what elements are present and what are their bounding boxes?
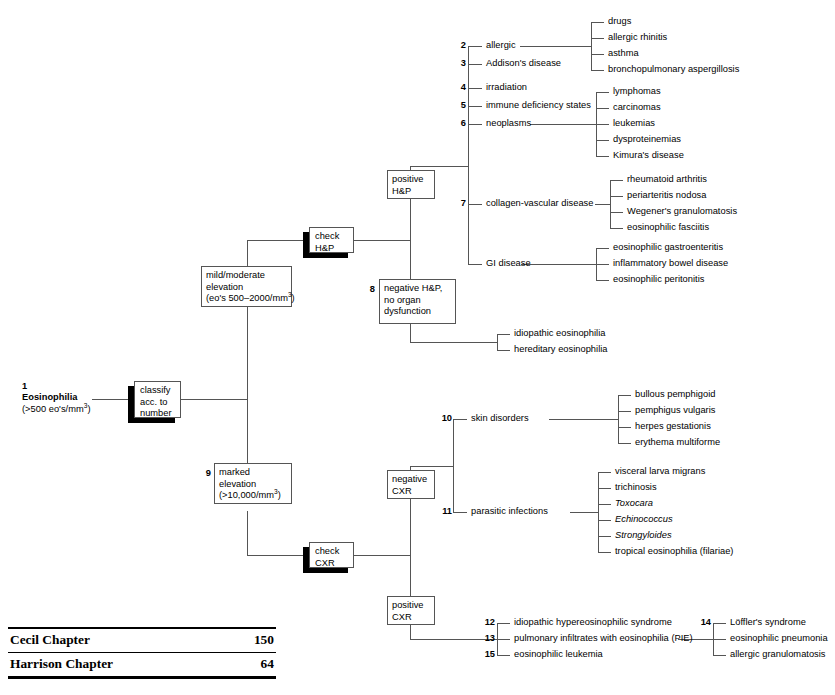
collagen-item-0: rheumatoid arthritis: [627, 174, 707, 186]
root-number: 1: [22, 381, 27, 391]
allergic-item-0: drugs: [608, 16, 631, 28]
negative-hp-item-1: hereditary eosinophilia: [514, 344, 608, 356]
positive-hp-line-2: H&P: [392, 186, 430, 198]
positive-cxr-node[interactable]: positive CXR: [387, 596, 435, 625]
classify-node[interactable]: classify acc. to number: [128, 381, 181, 423]
mild-line-3-prefix: (eo's 500–2000/mm: [206, 293, 288, 303]
classify-line-3: number: [140, 408, 180, 420]
marked-number: 9: [200, 468, 211, 478]
collagen-item-1: periarteritis nodosa: [627, 190, 706, 202]
check-hp-line-2: H&P: [315, 243, 353, 255]
classify-node-box[interactable]: classify acc. to number: [134, 381, 181, 418]
parasitic-item-5: tropical eosinophilia (filariae): [615, 546, 733, 558]
gi-item-2: eosinophilic peritonitis: [613, 274, 704, 286]
root-detail-suffix: ): [87, 404, 90, 414]
positive-cxr-label-13: pulmonary infiltrates with eosinophilia …: [514, 633, 693, 645]
parasitic-item-1: trichinosis: [615, 482, 657, 494]
marked-elevation-node[interactable]: marked elevation (>10,000/mm3): [214, 463, 292, 504]
check-cxr-line-2: CXR: [315, 558, 353, 570]
negative-hp-line-3: dysfunction: [384, 306, 451, 318]
positive-cxr-number-15: 15: [481, 649, 495, 659]
allergic-item-3: bronchopulmonary aspergillosis: [608, 64, 739, 76]
skin-item-2: herpes gestationis: [635, 421, 711, 433]
neoplasm-item-0: lymphomas: [613, 86, 661, 98]
neoplasm-item-3: dysproteinemias: [613, 134, 681, 146]
pie-number-14: 14: [697, 617, 711, 627]
negative-hp-number: 8: [364, 284, 375, 294]
allergic-item-2: asthma: [608, 48, 639, 60]
connector-lines: [0, 0, 835, 695]
negative-cxr-node[interactable]: negative CXR: [387, 470, 435, 499]
positive-cxr-number-12: 12: [481, 617, 495, 627]
cause-number-2: 2: [457, 40, 466, 50]
root-label: Eosinophilia: [22, 392, 78, 404]
mild-line-3: (eo's 500–2000/mm3): [206, 293, 287, 305]
positive-hp-node[interactable]: positive H&P: [387, 170, 435, 199]
mild-line-3-suffix: ): [292, 293, 295, 303]
table-row: Cecil Chapter 150: [8, 629, 276, 652]
positive-cxr-label-12: idiopathic hypereosinophilic syndrome: [514, 617, 672, 629]
root-label-text: Eosinophilia: [22, 392, 78, 402]
table-row: Harrison Chapter 64: [8, 653, 276, 676]
neoplasm-item-2: leukemias: [613, 118, 655, 130]
harrison-chapter-value: 64: [261, 656, 274, 672]
cxr-cause-number-10: 10: [438, 413, 452, 423]
marked-line-3: (>10,000/mm3): [219, 490, 287, 502]
mild-moderate-node[interactable]: mild/moderate elevation (eo's 500–2000/m…: [201, 266, 292, 307]
cause-label-gi-disease: GI disease: [486, 258, 531, 270]
cause-number-4: 4: [457, 82, 466, 92]
parasitic-item-0: visceral larva migrans: [615, 466, 705, 478]
cause-label-immune-deficiency: immune deficiency states: [486, 100, 591, 112]
marked-line-3-prefix: (>10,000/mm: [219, 490, 274, 500]
neoplasm-item-1: carcinomas: [613, 102, 661, 114]
cause-label-irradiation: irradiation: [486, 82, 527, 94]
check-cxr-node-box[interactable]: check CXR: [309, 542, 354, 568]
negative-hp-line-2: no organ: [384, 295, 451, 307]
positive-cxr-line-2: CXR: [392, 612, 430, 624]
neoplasm-item-4: Kimura's disease: [613, 150, 684, 162]
cause-label-addisons: Addison's disease: [486, 58, 561, 70]
cause-label-allergic: allergic: [486, 40, 516, 52]
root-detail-prefix: (>500 eo's/mm: [22, 404, 84, 414]
positive-cxr-label-15: eosinophilic leukemia: [514, 649, 603, 661]
cxr-cause-label-parasitic-infections: parasitic infections: [471, 506, 548, 518]
cxr-cause-number-11: 11: [438, 506, 452, 516]
negative-hp-item-0: idiopathic eosinophilia: [514, 328, 605, 340]
mild-line-1: mild/moderate: [206, 270, 287, 282]
check-hp-node-box[interactable]: check H&P: [309, 227, 354, 253]
negative-hp-line-1: negative H&P,: [384, 283, 451, 295]
eosinophilia-flowchart: 1 Eosinophilia (>500 eo's/mm3) classify …: [0, 0, 835, 695]
parasitic-item-2: Toxocara: [615, 498, 653, 510]
negative-cxr-line-2: CXR: [392, 486, 430, 498]
cause-number-3: 3: [457, 58, 466, 68]
reference-table: Cecil Chapter 150 Harrison Chapter 64: [8, 627, 276, 679]
root-detail: (>500 eo's/mm3): [22, 404, 91, 416]
skin-item-1: pemphigus vulgaris: [635, 405, 715, 417]
classify-line-1: classify: [140, 385, 180, 397]
harrison-chapter-label: Harrison Chapter: [10, 656, 113, 672]
pie-item-1: eosinophilic pneumonia: [730, 633, 828, 645]
check-cxr-node[interactable]: check CXR: [303, 542, 354, 573]
positive-cxr-number-13: 13: [481, 633, 495, 643]
cxr-cause-label-skin-disorders: skin disorders: [471, 413, 529, 425]
check-hp-line-1: check: [315, 231, 353, 243]
parasitic-item-4: Strongyloides: [615, 530, 672, 542]
check-hp-node[interactable]: check H&P: [303, 227, 354, 258]
skin-item-3: erythema multiforme: [635, 437, 720, 449]
gi-item-0: eosinophilic gastroenteritis: [613, 242, 723, 254]
cause-label-collagen-vascular: collagen-vascular disease: [486, 198, 593, 210]
positive-hp-line-1: positive: [392, 174, 430, 186]
cecil-chapter-value: 150: [254, 632, 274, 648]
cause-number-5: 5: [457, 100, 466, 110]
gi-item-1: inflammatory bowel disease: [613, 258, 728, 270]
collagen-item-2: Wegener's granulomatosis: [627, 206, 737, 218]
pie-item-2: allergic granulomatosis: [730, 649, 826, 661]
cause-number-6: 6: [457, 118, 466, 128]
positive-cxr-line-1: positive: [392, 600, 430, 612]
allergic-item-1: allergic rhinitis: [608, 32, 667, 44]
cause-label-neoplasms: neoplasms: [486, 118, 531, 130]
skin-item-0: bullous pemphigoid: [635, 389, 715, 401]
negative-hp-node[interactable]: negative H&P, no organ dysfunction: [379, 279, 456, 324]
negative-cxr-line-1: negative: [392, 474, 430, 486]
pie-item-0: Löffler's syndrome: [730, 617, 806, 629]
